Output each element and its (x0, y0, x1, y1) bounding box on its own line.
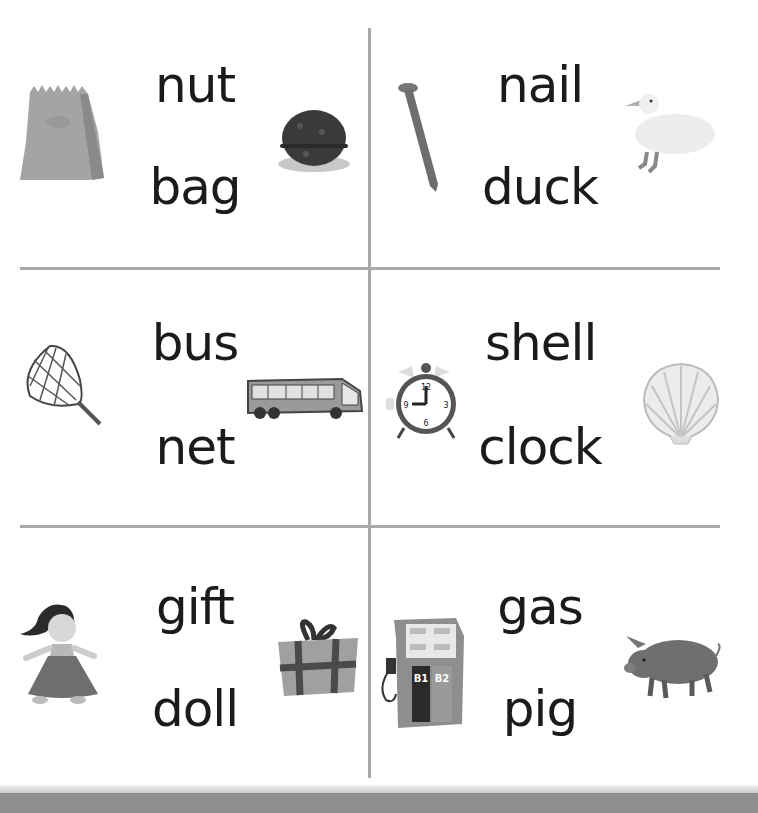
alarm-clock-icon: 12 3 6 9 (384, 358, 466, 442)
svg-text:12: 12 (421, 383, 431, 392)
word-shell: shell (485, 318, 595, 368)
page-footer-band (0, 793, 758, 813)
pump-label-b2: B2 (435, 673, 450, 684)
gas-pump-icon: B1 B2 (376, 608, 466, 732)
seashell-icon (640, 360, 722, 446)
word-net: net (150, 422, 240, 472)
word-bus: bus (150, 318, 240, 368)
word-doll: doll (150, 684, 240, 734)
paper-bag-icon (18, 82, 108, 182)
doll-icon (18, 598, 100, 708)
word-nut: nut (150, 60, 240, 110)
duck-icon (623, 92, 718, 176)
horizontal-divider-2 (20, 525, 720, 528)
word-gift: gift (148, 582, 242, 632)
gift-box-icon (274, 618, 360, 698)
bus-icon (244, 377, 364, 421)
pump-label-b1: B1 (414, 673, 429, 684)
butterfly-net-icon (20, 340, 105, 426)
pig-icon (622, 626, 722, 702)
svg-text:6: 6 (423, 419, 428, 428)
word-bag: bag (145, 162, 245, 212)
word-pig: pig (490, 684, 590, 734)
page-footer-shadow (0, 785, 758, 793)
walnut-icon (276, 108, 352, 174)
horizontal-divider-1 (20, 267, 720, 270)
word-gas: gas (488, 582, 592, 632)
word-duck: duck (480, 162, 600, 212)
vertical-divider (368, 28, 371, 778)
word-nail: nail (490, 60, 590, 110)
word-clock: clock (478, 422, 602, 472)
nail-icon (396, 80, 446, 195)
svg-text:9: 9 (403, 401, 408, 410)
svg-text:3: 3 (443, 401, 448, 410)
